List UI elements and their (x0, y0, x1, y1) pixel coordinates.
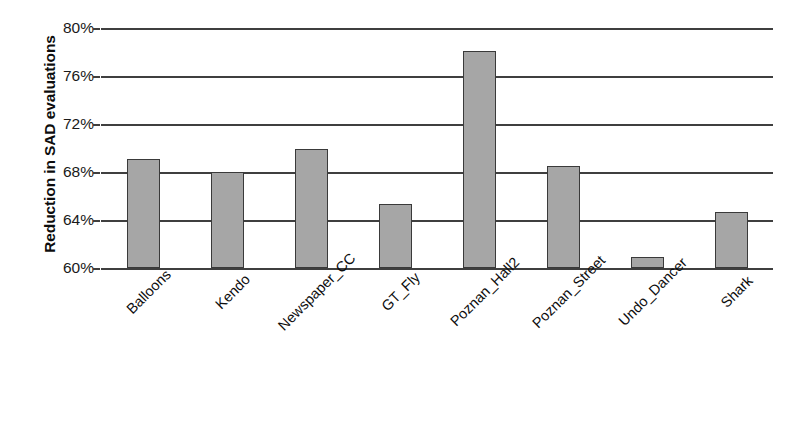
plot-area (101, 28, 773, 268)
x-label-slot: GT_Fly (353, 268, 437, 418)
y-tick-label: 80% (38, 20, 94, 36)
y-tickmark (93, 220, 100, 222)
y-tick-label: 64% (38, 212, 94, 228)
x-label-slot: Newspaper_CC (269, 268, 353, 418)
y-tick-label: 72% (38, 116, 94, 132)
bar-undo_dancer[interactable] (631, 257, 664, 268)
x-axis-label-balloons: Balloons (123, 266, 174, 317)
x-label-slot: Poznan_Street (521, 268, 605, 418)
bar-chart: Reduction in SAD evaluations 80%76%72%68… (0, 0, 792, 428)
y-tickmark (93, 172, 100, 174)
y-tickmark (93, 28, 100, 30)
x-axis-label-kendo: Kendo (212, 271, 253, 312)
bar-poznan_street[interactable] (547, 166, 580, 268)
y-tickmark (93, 76, 100, 78)
y-tick-label: 68% (38, 164, 94, 180)
x-label-slot: Kendo (185, 268, 269, 418)
x-label-slot: Undo_Dancer (605, 268, 689, 418)
x-axis-tick-labels: BalloonsKendoNewspaper_CCGT_FlyPoznan_Ha… (101, 268, 773, 428)
y-axis-tick-labels: 80%76%72%68%64%60% (32, 0, 94, 428)
x-label-slot: Poznan_Hall2 (437, 268, 521, 418)
x-label-slot: Balloons (101, 268, 185, 418)
bar-balloons[interactable] (127, 159, 160, 268)
x-axis-label-gt_fly: GT_Fly (378, 269, 423, 314)
y-tick-label: 76% (38, 68, 94, 84)
bar-kendo[interactable] (211, 172, 244, 268)
bars-layer (101, 28, 773, 268)
y-tickmark (93, 124, 100, 126)
x-label-slot: Shark (689, 268, 773, 418)
y-tick-label: 60% (38, 260, 94, 276)
bar-gt_fly[interactable] (379, 204, 412, 268)
x-axis-label-shark: Shark (718, 273, 756, 311)
bar-poznan_hall2[interactable] (463, 51, 496, 268)
bar-shark[interactable] (715, 212, 748, 268)
y-tickmark (93, 268, 100, 270)
bar-newspaper_cc[interactable] (295, 149, 328, 268)
